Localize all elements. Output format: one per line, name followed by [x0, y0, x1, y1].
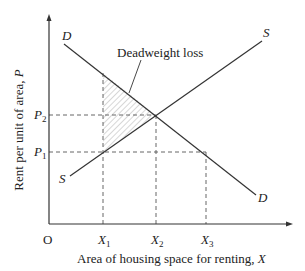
supply-curve — [70, 41, 262, 176]
annotation-leader — [129, 60, 141, 93]
demand-curve — [64, 44, 256, 195]
annotation-label: Deadweight loss — [117, 45, 203, 60]
x2-label: X2 — [150, 232, 163, 249]
demand-label-bottom: D — [257, 190, 268, 205]
y-axis-arrow — [47, 14, 52, 21]
origin-label: O — [43, 232, 52, 247]
x1-label: X1 — [97, 232, 110, 249]
supply-label-bottom: S — [59, 171, 66, 186]
p1-label: P1 — [33, 144, 46, 161]
deadweight-loss-area — [103, 73, 156, 152]
supply-label-top: S — [263, 25, 270, 40]
x-axis-arrow — [286, 222, 293, 227]
demand-label-top: D — [61, 28, 72, 43]
x3-label: X3 — [200, 232, 214, 249]
deadweight-loss-diagram: Deadweight loss D D S S P2 P1 O X1 X2 X3… — [0, 0, 305, 271]
p2-label: P2 — [33, 107, 46, 124]
x-axis-title: Area of housing space for renting, X — [77, 251, 267, 266]
y-axis-title: Rent per unit of area, P — [11, 69, 26, 190]
